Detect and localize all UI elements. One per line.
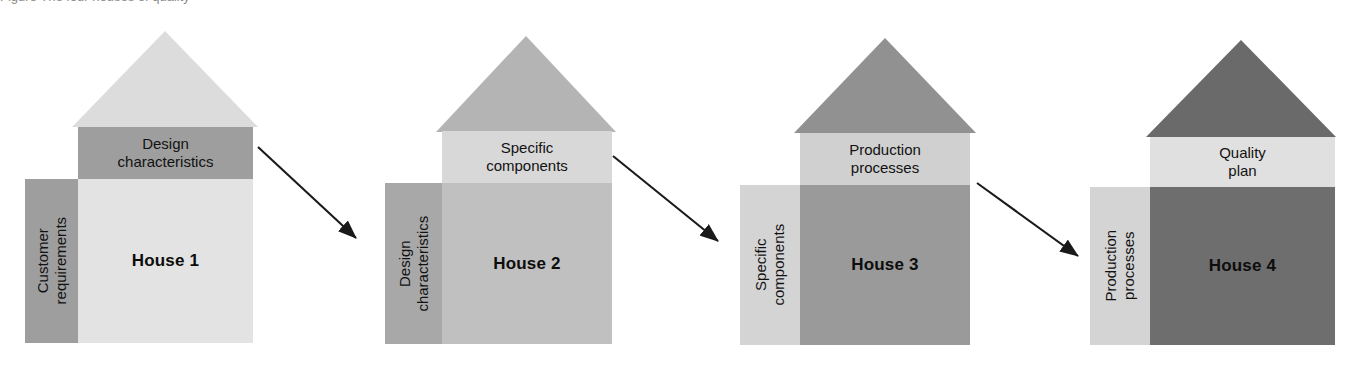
- house-3-left-line2: components: [770, 224, 788, 306]
- house-2-top-band: Specific components: [442, 131, 612, 183]
- house-4-left-column: Production processes: [1090, 187, 1150, 345]
- qfd-four-houses-diagram: Figure The four houses of quality Design…: [0, 0, 1358, 371]
- house-3-top-band: Production processes: [800, 133, 970, 185]
- house-4-top-band: Quality plan: [1150, 137, 1335, 187]
- house-2-band-line2: components: [486, 157, 568, 175]
- arrow-house2-to-house3: [613, 156, 718, 241]
- house-2-band-line1: Specific: [486, 139, 568, 157]
- house-1-left-line1: Customer: [34, 217, 52, 305]
- house-4-left-line1: Production: [1102, 230, 1120, 302]
- house-1-roof: [72, 31, 258, 127]
- house-1-band-line2: characteristics: [118, 153, 214, 171]
- house-4-left-line2: processes: [1120, 230, 1138, 302]
- house-1-left-line2: requirements: [52, 217, 70, 305]
- house-3-left-line1: Specific: [752, 224, 770, 306]
- house-3-label: House 3: [851, 255, 919, 275]
- house-4-band-line2: plan: [1219, 162, 1266, 180]
- house-4-band-line1: Quality: [1219, 144, 1266, 162]
- house-2-label: House 2: [493, 254, 561, 274]
- house-3-body: House 3: [800, 185, 970, 345]
- house-4-label: House 4: [1209, 256, 1277, 276]
- house-3-band-line1: Production: [849, 141, 921, 159]
- house-1-top-band: Design characteristics: [78, 127, 253, 179]
- cropped-caption-remnant: Figure The four houses of quality: [0, 0, 1358, 6]
- house-3-left-column: Specific components: [740, 185, 800, 345]
- house-3-roof: [794, 38, 976, 133]
- house-1-label: House 1: [132, 251, 200, 271]
- house-1-band-line1: Design: [118, 135, 214, 153]
- house-2-left-column: Design characteristics: [385, 183, 442, 344]
- house-2-body: House 2: [442, 183, 612, 344]
- caption-remnant-text: Figure The four houses of quality: [0, 0, 190, 4]
- house-2-left-line1: Design: [396, 216, 414, 312]
- arrow-house3-to-house4: [977, 183, 1078, 256]
- house-4-roof: [1146, 40, 1336, 137]
- house-1-left-column: Customer requirements: [25, 179, 78, 343]
- house-3-band-line2: processes: [849, 159, 921, 177]
- house-4-body: House 4: [1150, 187, 1335, 345]
- house-1-body: House 1: [78, 179, 253, 343]
- house-2-roof: [436, 36, 616, 132]
- arrow-house1-to-house2: [258, 147, 356, 238]
- house-2-left-line2: characteristics: [414, 216, 432, 312]
